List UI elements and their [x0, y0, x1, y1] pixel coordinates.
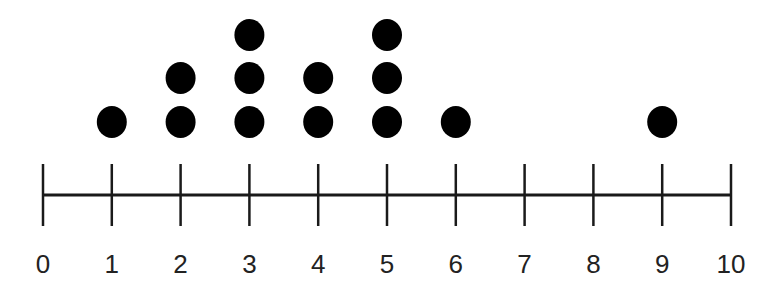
data-dot [303, 62, 333, 94]
data-dot [166, 62, 196, 94]
data-dot [441, 106, 471, 138]
data-dot [234, 19, 264, 51]
data-dot [372, 62, 402, 94]
data-dot [234, 106, 264, 138]
tick-label: 3 [242, 249, 256, 279]
tick-label: 5 [380, 249, 394, 279]
data-dot [372, 106, 402, 138]
tick-labels: 012345678910 [36, 249, 746, 279]
tick-label: 8 [586, 249, 600, 279]
data-dot [97, 106, 127, 138]
tick-label: 4 [311, 249, 325, 279]
tick-label: 10 [717, 249, 746, 279]
data-dots [97, 19, 677, 138]
tick-label: 1 [105, 249, 119, 279]
dot-plot: 012345678910 [0, 0, 764, 296]
data-dot [372, 19, 402, 51]
tick-label: 9 [655, 249, 669, 279]
tick-label: 7 [517, 249, 531, 279]
data-dot [647, 106, 677, 138]
tick-label: 6 [449, 249, 463, 279]
data-dot [234, 62, 264, 94]
tick-label: 0 [36, 249, 50, 279]
tick-label: 2 [173, 249, 187, 279]
data-dot [166, 106, 196, 138]
dot-plot-svg: 012345678910 [0, 0, 764, 296]
data-dot [303, 106, 333, 138]
